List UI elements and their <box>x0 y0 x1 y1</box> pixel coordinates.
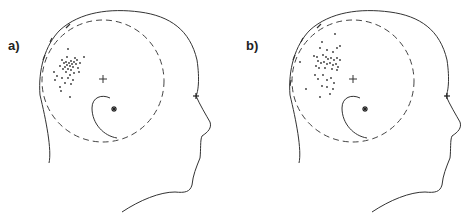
dot-cluster-tight <box>53 48 85 98</box>
nasion-asterisk-icon <box>193 93 199 99</box>
face-profile <box>122 96 211 212</box>
face-profile <box>372 96 461 212</box>
head-outline <box>290 11 449 163</box>
head-diagram-b <box>237 0 474 222</box>
ear-asterisk-icon <box>362 106 368 112</box>
ear-curve <box>342 96 367 138</box>
panel-b: b) <box>237 0 474 222</box>
crosshair-icon <box>99 75 107 83</box>
ear-asterisk-icon <box>111 106 117 112</box>
nasion-asterisk-icon <box>444 93 450 99</box>
head-diagram-a <box>0 0 237 222</box>
head-outline <box>40 11 199 163</box>
ear-curve <box>92 96 117 138</box>
crosshair-icon <box>349 75 357 83</box>
panel-a: a) <box>0 0 237 222</box>
